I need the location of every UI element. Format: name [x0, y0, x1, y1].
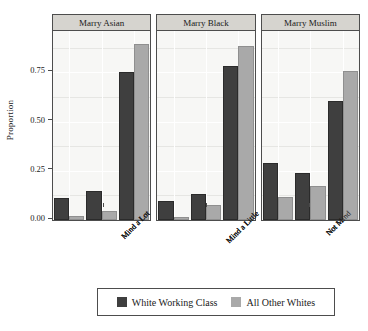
y-axis-tick: 0.50 [30, 115, 52, 125]
panel-title: Marry Black [156, 14, 255, 30]
bar-group [294, 31, 326, 220]
y-axis-tick-label: 0.00 [30, 213, 48, 223]
bar [119, 72, 134, 220]
panel-3: Marry MuslimMind a LotMind a LittleNot M… [261, 14, 360, 221]
panel-row: Marry AsianMind a LotMind a LittleNot Mi… [52, 14, 360, 221]
faceted-bar-chart: Proportion 0.000.250.500.75 Marry AsianM… [0, 0, 368, 331]
x-axis-labels: Mind a LotMind a LittleNot Mind [52, 209, 360, 271]
bar-group [53, 31, 85, 220]
y-axis-tick-label: 0.75 [30, 65, 48, 75]
x-axis-tick-label: Not Mind [324, 209, 353, 238]
x-axis-tick-label: Mind a Little [224, 209, 260, 245]
panel-2: Marry BlackMind a LotMind a LittleNot Mi… [156, 14, 255, 221]
x-axis-tick-label: Mind a Lot [120, 209, 152, 241]
bars-container [262, 31, 359, 220]
panel-plot-area [261, 30, 360, 221]
bar-group [85, 31, 117, 220]
x-axis-tick-mark [309, 203, 310, 207]
x-axis-tick-mark [103, 203, 104, 207]
y-axis-tick-label: 0.50 [30, 115, 48, 125]
bar-group [157, 31, 189, 220]
bar-group [222, 31, 254, 220]
y-axis-tick: 0.25 [30, 164, 52, 174]
bar [343, 71, 358, 220]
y-axis-tick: 0.00 [30, 213, 52, 223]
y-axis-label-text: Proportion [5, 100, 15, 141]
bar-group [190, 31, 222, 220]
panel-1: Marry AsianMind a LotMind a LittleNot Mi… [52, 14, 151, 221]
bar-group [118, 31, 150, 220]
panel-title: Marry Muslim [261, 14, 360, 30]
legend-label: White Working Class [132, 297, 218, 308]
bar [134, 44, 149, 220]
y-axis-label: Proportion [2, 60, 18, 180]
legend-item: White Working Class [117, 297, 218, 308]
panel-plot-area [52, 30, 151, 221]
y-axis-tick: 0.75 [30, 65, 52, 75]
bar-group [262, 31, 294, 220]
y-axis: 0.000.250.500.75 [18, 14, 52, 219]
legend-swatch [231, 297, 241, 307]
y-axis-tick-label: 0.25 [30, 164, 48, 174]
panel-title: Marry Asian [52, 14, 151, 30]
legend-item: All Other Whites [231, 297, 315, 308]
legend-label: All Other Whites [246, 297, 315, 308]
bar-group [327, 31, 359, 220]
bar [238, 46, 253, 220]
x-axis [52, 203, 360, 208]
x-axis-tick-mark [206, 203, 207, 207]
legend: White Working ClassAll Other Whites [97, 288, 335, 316]
bars-container [53, 31, 150, 220]
bar [223, 66, 238, 220]
panel-plot-area [156, 30, 255, 221]
legend-swatch [117, 297, 127, 307]
bars-container [157, 31, 254, 220]
